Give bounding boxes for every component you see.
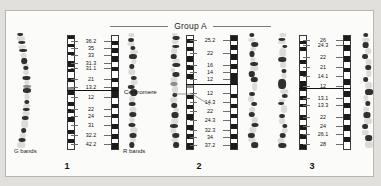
band-label: 35	[76, 45, 106, 51]
band-label: 34	[195, 134, 225, 140]
band-label: 22	[308, 54, 338, 60]
ideogram-band	[112, 71, 118, 78]
header-rule-right	[213, 26, 271, 27]
group-title: Group A	[174, 21, 207, 31]
figure-plate: Group A 36.2353331.331.12113.21222243132…	[5, 10, 374, 177]
ideogram-band	[344, 72, 350, 79]
group-header: Group A	[6, 20, 375, 32]
band-label: 12	[195, 76, 225, 82]
ideogram-band	[231, 143, 237, 149]
band-label: 24.3	[308, 42, 338, 48]
band-label: 24	[76, 113, 106, 119]
centromere-label: Centromere	[124, 88, 157, 95]
ideogram-band	[300, 51, 306, 60]
chromosome-group-3: 2624.3222114.11213.113.3222426.1283	[264, 33, 380, 178]
band-label: 22	[195, 50, 225, 56]
band-label: 22	[76, 106, 106, 112]
chromosome-photograph	[356, 33, 378, 151]
band-label: 14.1	[308, 73, 338, 79]
chromosome-number-2: 2	[184, 161, 214, 171]
band-label-column: 36.2353331.331.12113.21222243132.242.2	[76, 33, 106, 153]
band-label: 21	[308, 64, 338, 70]
band-label: 12	[76, 94, 106, 100]
ideogram-band	[300, 107, 306, 115]
band-label: 16	[195, 62, 225, 68]
band-label: 26.1	[308, 131, 338, 137]
band-label: 42.2	[76, 141, 106, 147]
centromere-line	[67, 90, 119, 91]
centromere-line	[299, 88, 351, 89]
ideogram-band	[231, 85, 237, 94]
figure-root: Group A 36.2353331.331.12113.21222243132…	[0, 0, 381, 186]
band-label: 31	[76, 122, 106, 128]
band-label: 24	[308, 123, 338, 129]
ideogram-band	[112, 143, 118, 149]
ideogram-band	[68, 122, 74, 130]
ideogram-r-bands	[343, 35, 351, 150]
band-label: 24.3	[195, 117, 225, 123]
ideogram-r-bands	[111, 35, 119, 150]
band-label: 22	[195, 108, 225, 114]
band-label: 21	[76, 76, 106, 82]
ideogram-g-bands	[299, 35, 307, 150]
band-label: 37.2	[195, 142, 225, 148]
chromosome-photograph	[272, 33, 294, 151]
band-label: 31.1	[76, 65, 106, 71]
ideogram-band	[68, 95, 74, 102]
r-bands-caption: R bands	[123, 148, 145, 154]
chromosome-photograph	[12, 33, 34, 151]
band-label: 25.2	[195, 37, 225, 43]
band-label: 32.3	[195, 127, 225, 133]
band-label: 13.3	[308, 102, 338, 108]
g-bands-caption: G bands	[14, 148, 37, 154]
band-label: 32.2	[76, 132, 106, 138]
ideogram-r-bands	[230, 35, 238, 150]
chromosome-row: 2624.3222114.11213.113.3222426.128	[264, 33, 380, 155]
ideogram-g-bands	[67, 35, 75, 150]
header-rule-left	[110, 26, 168, 27]
centromere-leader-line	[174, 85, 214, 107]
chromosome-photograph	[242, 33, 264, 151]
band-label-column: 2624.3222114.11213.113.3222426.128	[308, 33, 338, 153]
ideogram-band	[112, 91, 118, 98]
band-label: 14	[195, 69, 225, 75]
chromosome-number-1: 1	[52, 161, 82, 171]
band-label: 22	[308, 114, 338, 120]
chromosome-number-3: 3	[297, 161, 327, 171]
chromosome-group-1: 36.2353331.331.12113.21222243132.242.21	[12, 33, 146, 178]
band-label: 28	[308, 141, 338, 147]
band-label: 13.1	[308, 95, 338, 101]
band-label: 36.2	[76, 38, 106, 44]
ideogram-band	[344, 142, 350, 149]
band-label: 33	[76, 52, 106, 58]
band-label: 13.2	[76, 84, 106, 90]
